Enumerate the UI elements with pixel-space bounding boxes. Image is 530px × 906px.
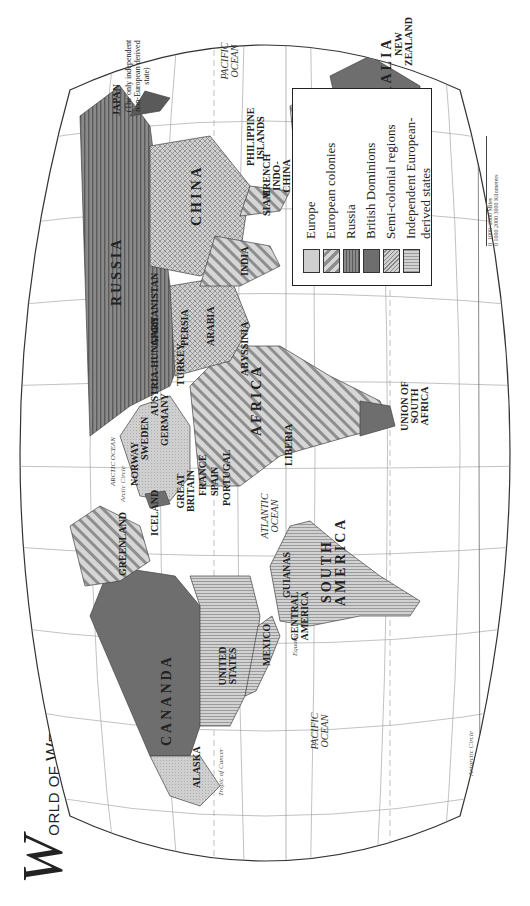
scale-bar: 0 1000 2000 Miles 0 1000 2000 3000 Kilom… — [486, 136, 499, 246]
swatch-semi-colonial — [383, 249, 400, 273]
label-liberia: LIBERIA — [284, 424, 294, 466]
label-south-america: SOUTH AMERICA — [320, 536, 348, 606]
label-philippine-islands: PHILIPPINE ISLANDS — [246, 110, 266, 166]
label-japan: JAPAN — [112, 84, 122, 116]
label-spain: SPAIN — [210, 467, 220, 496]
label-canada: CANANDA — [160, 654, 174, 746]
label-india: INDIA — [240, 247, 250, 276]
label-arctic-circle: Arctic Circle — [118, 466, 128, 502]
label-antarctic-circle: Antarctic Circle — [466, 731, 476, 776]
label-japan-note: (The only independent non-European deriv… — [124, 36, 151, 116]
label-atlantic-ocean: ATLANTIC OCEAN — [260, 486, 280, 546]
label-greenland: GREENLAND — [118, 512, 128, 576]
swatch-russia — [343, 249, 360, 273]
label-pacific-ocean-east: PACIFIC OCEAN — [220, 36, 240, 86]
label-tropic-cancer: Tropic of Cancer — [216, 748, 226, 796]
legend-item-russia: Russia — [343, 101, 360, 273]
label-guianas: GUIANAS — [282, 552, 292, 598]
legend-item-europe: Europe — [303, 101, 320, 273]
region-new-zealand — [410, 36, 450, 51]
label-equator: Equator — [290, 633, 300, 656]
swatch-independent-european-derived — [403, 249, 420, 273]
swatch-european-colonies — [323, 249, 340, 273]
label-arabia: ARABIA — [206, 307, 216, 346]
swatch-british-dominions — [363, 249, 380, 273]
label-pacific-ocean-west: PACIFIC OCEAN — [310, 706, 330, 756]
label-germany: GERMANY — [160, 393, 170, 446]
label-new-zealand: NEW ZEALAND — [394, 22, 414, 66]
legend-item-semi-colonial: Semi-colonial regions — [383, 101, 400, 273]
legend-item-european-colonies: European colonies — [323, 101, 340, 273]
label-abyssinia: ABYSSINIA — [240, 322, 250, 376]
label-turkey: TURKEY — [176, 343, 186, 386]
label-persia: PERSIA — [180, 309, 190, 346]
label-china: CHINA — [190, 164, 204, 226]
label-russia: RUSSIA — [110, 237, 124, 306]
label-france: FRANCE — [198, 454, 208, 496]
label-great-britain: GREAT BRITAIN — [176, 468, 196, 514]
label-iceland: ICELAND — [150, 490, 160, 536]
label-united-states: UNITED STATES — [218, 636, 238, 696]
map-stage: WORLD OF WESTERN DOMINANCE: 1914 — [0, 0, 530, 906]
label-sweden: SWEDEN — [140, 417, 150, 460]
label-alaska: ALASKA — [192, 746, 202, 788]
label-afghanistan: AFGHANISTAN — [150, 273, 160, 346]
label-mexico: MEXICO — [262, 624, 272, 666]
legend-item-british-dominions: British Dominions — [363, 101, 380, 273]
label-union-south-africa: UNION OF SOUTH AFRICA — [400, 376, 430, 436]
map-legend: Europe European colonies Russia British … — [292, 88, 432, 286]
label-portugal: PORTUGAL — [222, 450, 232, 506]
label-africa: AFRICA — [250, 364, 264, 436]
label-french-indochina: FRENCH INDO-CHINA — [262, 156, 292, 196]
legend-item-independent-european-derived: Independent European-derived states — [403, 101, 433, 273]
swatch-europe — [303, 249, 320, 273]
label-arctic-ocean: ARCTIC OCEAN — [108, 437, 118, 486]
